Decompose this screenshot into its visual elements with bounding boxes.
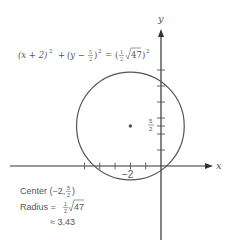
svg-text:2: 2 — [67, 192, 70, 198]
svg-text:1: 1 — [64, 201, 67, 207]
y-axis-arrow-icon — [158, 29, 164, 37]
svg-text:47: 47 — [131, 50, 142, 60]
svg-text:47: 47 — [74, 202, 84, 212]
svg-text:2: 2 — [64, 208, 67, 214]
svg-text:): ) — [142, 50, 145, 60]
svg-text:=: = — [105, 50, 112, 60]
svg-text:): ) — [72, 186, 75, 196]
svg-text:2: 2 — [120, 56, 123, 62]
circle-diagram: x y −2 5 2 (x + 2) 2 + (y − 5 2 ) 2 = ( … — [0, 0, 225, 252]
y-axis-label: y — [157, 13, 164, 24]
svg-text:2: 2 — [49, 48, 53, 54]
y-tick-label-num: 5 — [149, 118, 153, 124]
svg-text:2: 2 — [89, 56, 92, 62]
svg-text:(x + 2): (x + 2) — [18, 50, 47, 60]
svg-text:2: 2 — [146, 48, 150, 54]
svg-text:(: ( — [115, 50, 118, 60]
svg-text:5: 5 — [89, 49, 92, 55]
svg-text:≈ 3.43: ≈ 3.43 — [50, 217, 75, 227]
y-tick-label-den: 2 — [149, 126, 153, 132]
svg-text:2: 2 — [98, 48, 102, 54]
svg-text:(y −: (y − — [67, 50, 85, 60]
svg-text:1: 1 — [120, 49, 123, 55]
svg-text:5: 5 — [67, 185, 70, 191]
svg-text:+: + — [58, 50, 65, 60]
x-axis-arrow-icon — [205, 163, 213, 169]
svg-text:): ) — [94, 50, 97, 60]
svg-text:Center (−2,: Center (−2, — [20, 186, 65, 196]
circle-equation: (x + 2) 2 + (y − 5 2 ) 2 = ( 1 2 47 ) 2 — [18, 48, 150, 62]
x-tick-label: −2 — [122, 169, 134, 180]
center-point — [129, 124, 133, 128]
svg-text:Radius =: Radius = — [20, 202, 56, 212]
x-axis-label: x — [216, 160, 222, 171]
center-radius-info: Center (−2, 5 2 ) Radius = 1 2 47 ≈ 3.43 — [20, 185, 84, 227]
